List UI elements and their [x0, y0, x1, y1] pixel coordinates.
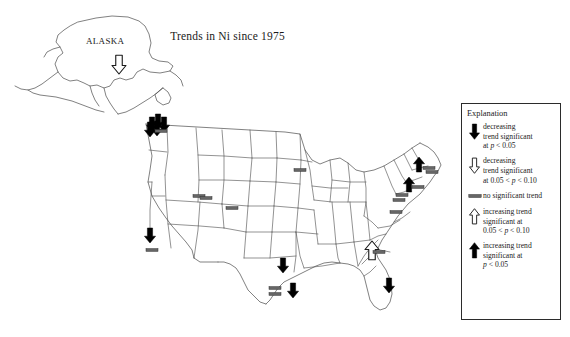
trend-marker-no_trend: [390, 211, 402, 214]
hollow-down-arrow-icon: [467, 156, 482, 174]
legend-entry-decreasing-significant: decreasing trend significant at p < 0.05: [467, 122, 556, 151]
legend-entry-text: decreasing trend significant at 0.05 < p…: [482, 156, 537, 185]
legend-title: Explanation: [467, 109, 556, 118]
trend-marker-no_trend: [393, 199, 405, 202]
legend-entry-increasing-significant: increasing trend significant at p < 0.05: [467, 241, 556, 270]
legend-entry-decreasing-marginal: decreasing trend significant at 0.05 < p…: [467, 156, 556, 185]
legend-line-1: increasing trend: [483, 207, 532, 217]
legend-line-2: trend significant: [483, 166, 537, 176]
trend-marker-increasing_significant: [413, 157, 424, 172]
legend-entry-text: no significant trend: [482, 191, 542, 201]
legend-line-2: significant at: [483, 217, 532, 227]
solid-up-arrow-icon: [467, 241, 482, 259]
trend-marker-decreasing_significant: [383, 278, 394, 293]
legend-entry-increasing-marginal: increasing trend significant at 0.05 < p…: [467, 207, 556, 236]
legend-entry-text: decreasing trend significant at p < 0.05: [482, 122, 533, 151]
hollow-up-arrow-icon: [467, 207, 482, 225]
trend-marker-no_trend: [269, 287, 281, 290]
legend-panel: Explanation decreasing trend significant…: [461, 103, 561, 320]
trend-marker-decreasing_significant: [277, 258, 288, 273]
horizontal-bar-icon: [467, 192, 482, 199]
trend-marker-no_trend: [396, 194, 408, 197]
legend-line-3: at 0.05 < p < 0.10: [483, 176, 537, 186]
legend-line-1: increasing trend: [483, 241, 532, 251]
trend-marker-decreasing_significant: [287, 283, 298, 298]
legend-line-1: no significant trend: [483, 191, 542, 201]
legend-entry-no-trend: no significant trend: [467, 191, 556, 201]
legend-line-2: trend significant: [483, 132, 533, 142]
trend-marker-no_trend: [373, 251, 385, 254]
trend-marker-no_trend: [294, 169, 306, 172]
trend-marker-no_trend: [200, 197, 212, 200]
trend-marker-increasing_significant: [403, 177, 414, 192]
trend-marker-no_trend: [226, 207, 238, 210]
legend-line-1: decreasing: [483, 156, 537, 166]
legend-line-3: at p < 0.05: [483, 141, 533, 151]
figure-root: Trends in Ni since 1975: [0, 0, 570, 337]
trend-marker-no_trend: [155, 130, 167, 133]
legend-line-1: decreasing: [483, 122, 533, 132]
solid-down-arrow-icon: [467, 122, 482, 140]
trend-marker-no_trend: [269, 293, 281, 296]
trend-marker-no_trend: [423, 167, 435, 170]
legend-entry-text: increasing trend significant at 0.05 < p…: [482, 207, 532, 236]
trend-marker-decreasing_marginal: [112, 55, 126, 74]
marker-group: [112, 55, 438, 298]
legend-line-3: p < 0.05: [483, 260, 532, 270]
trend-marker-no_trend: [146, 249, 158, 252]
legend-line-2: significant at: [483, 251, 532, 261]
trend-marker-no_trend: [426, 171, 438, 174]
legend-entry-text: increasing trend significant at p < 0.05: [482, 241, 532, 270]
legend-line-3: 0.05 < p < 0.10: [483, 226, 532, 236]
trend-marker-no_trend: [412, 186, 424, 189]
trend-marker-decreasing_significant: [144, 228, 155, 243]
